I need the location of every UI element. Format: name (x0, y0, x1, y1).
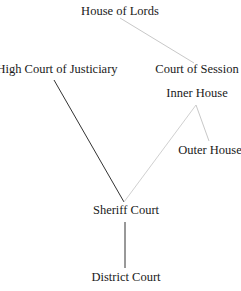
node-house-of-lords: House of Lords (81, 4, 159, 19)
node-high-court-justiciary: High Court of Justiciary (0, 62, 118, 77)
node-district-court: District Court (91, 270, 160, 285)
edge-lords-session (120, 18, 194, 63)
edge-inner-outer (196, 105, 209, 141)
edge-justiciary-sheriff (54, 80, 124, 202)
node-outer-house: Outer House (178, 143, 241, 158)
node-sheriff-court: Sheriff Court (93, 203, 159, 218)
node-court-of-session: Court of Session (155, 62, 238, 77)
node-inner-house: Inner House (166, 86, 227, 101)
